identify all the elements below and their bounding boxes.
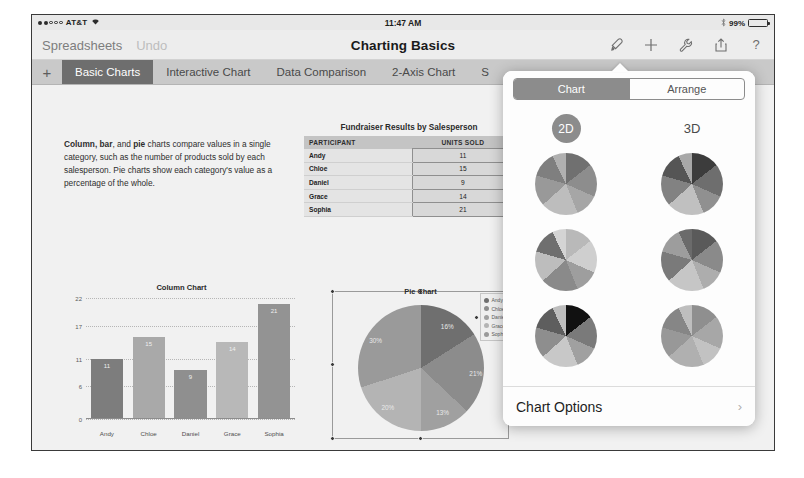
- cell-participant[interactable]: Grace: [304, 189, 412, 203]
- help-question-icon[interactable]: ?: [747, 36, 764, 54]
- dimension-2d[interactable]: 2D: [503, 114, 629, 143]
- table-title: Fundraiser Results by Salesperson: [304, 123, 514, 132]
- bar[interactable]: 15: [133, 337, 165, 420]
- clock-label: 11:47 AM: [32, 18, 774, 28]
- legend-label: Andy: [492, 297, 503, 303]
- y-axis-tick-label: 6: [79, 384, 82, 390]
- cell-units-sold[interactable]: 11: [412, 149, 513, 163]
- tab-data-comparison[interactable]: Data Comparison: [264, 60, 379, 84]
- column-header-participant: PARTICIPANT: [304, 136, 412, 149]
- share-export-icon[interactable]: [712, 36, 729, 54]
- resize-handle-bc[interactable]: [418, 436, 423, 441]
- column-chart[interactable]: Column Chart 06111722 111591421 AndyChlo…: [60, 281, 303, 441]
- status-bar-right: 99%: [721, 18, 768, 29]
- y-axis-tick-label: 11: [76, 357, 82, 363]
- chart-options-row[interactable]: Chart Options ›: [503, 386, 755, 426]
- legend-handle[interactable]: [474, 315, 479, 320]
- pie-slice-label: 16%: [441, 323, 454, 330]
- tab-2-axis-chart[interactable]: 2-Axis Chart: [379, 60, 468, 84]
- x-axis-labels: AndyChloeDanielGraceSophia: [86, 430, 295, 437]
- pie-graphic[interactable]: [358, 305, 484, 431]
- data-table-block[interactable]: Fundraiser Results by Salesperson PARTIC…: [304, 123, 514, 217]
- tools-wrench-icon[interactable]: [677, 36, 694, 54]
- cell-participant[interactable]: Chloe: [304, 162, 412, 176]
- table-row[interactable]: Daniel9: [304, 176, 514, 190]
- cell-participant[interactable]: Daniel: [304, 176, 412, 190]
- nav-right-group: ?: [607, 30, 764, 60]
- cell-units-sold[interactable]: 21: [412, 203, 513, 217]
- x-axis-line: [86, 418, 295, 419]
- tab-scatter-partial[interactable]: S: [468, 60, 502, 84]
- pie-style-3[interactable]: [535, 229, 597, 291]
- bar-column[interactable]: 15: [133, 298, 165, 419]
- bar-value-label: 15: [133, 341, 165, 347]
- dimension-2d-label: 2D: [552, 114, 581, 143]
- y-axis-tick-label: 17: [75, 324, 82, 330]
- table-row[interactable]: Sophia21: [304, 203, 514, 217]
- tab-interactive-chart[interactable]: Interactive Chart: [153, 60, 263, 84]
- svg-text:?: ?: [752, 37, 759, 52]
- x-axis-category-label: Andy: [91, 430, 123, 437]
- navigation-bar: Spreadsheets Undo Charting Basics: [32, 30, 774, 60]
- bar-column[interactable]: 14: [216, 298, 248, 419]
- x-axis-category-label: Grace: [216, 430, 248, 437]
- legend-swatch: [484, 298, 489, 303]
- cell-participant[interactable]: Andy: [304, 149, 412, 163]
- gridline: 0: [86, 419, 295, 420]
- insert-plus-icon[interactable]: [642, 36, 659, 54]
- bar[interactable]: 11: [91, 359, 123, 420]
- description-bold-pie: pie: [133, 139, 145, 149]
- bar-column[interactable]: 21: [258, 298, 290, 419]
- dimension-3d[interactable]: 3D: [629, 114, 755, 143]
- pie-chart[interactable]: Pie Chart 16%21%13%20%30% AndyChloeDanie…: [328, 285, 513, 445]
- pie-style-1[interactable]: [535, 153, 597, 215]
- bar[interactable]: 9: [174, 370, 206, 420]
- bar-column[interactable]: 11: [91, 298, 123, 419]
- chevron-right-icon: ›: [738, 399, 742, 414]
- chart-options-label: Chart Options: [516, 399, 602, 415]
- x-axis-category-label: Sophia: [258, 430, 290, 437]
- popover-header: Chart Arrange: [503, 71, 755, 108]
- pie-style-2[interactable]: [661, 153, 723, 215]
- table-row[interactable]: Andy11: [304, 149, 514, 163]
- y-axis-tick-label: 22: [75, 296, 82, 302]
- pie-style-4[interactable]: [661, 229, 723, 291]
- bar[interactable]: 14: [216, 342, 248, 419]
- tab-basic-charts[interactable]: Basic Charts: [62, 60, 153, 84]
- legend-swatch: [484, 332, 489, 337]
- legend-swatch: [484, 323, 489, 328]
- add-sheet-button[interactable]: +: [32, 60, 62, 84]
- bar-value-label: 21: [258, 308, 290, 314]
- pie-style-6[interactable]: [661, 305, 723, 367]
- segment-chart[interactable]: Chart: [514, 79, 629, 99]
- bar[interactable]: 21: [258, 304, 290, 420]
- segmented-control[interactable]: Chart Arrange: [513, 78, 745, 100]
- bar-series: 111591421: [86, 298, 295, 419]
- format-brush-icon[interactable]: [607, 36, 624, 54]
- segment-arrange[interactable]: Arrange: [629, 79, 745, 99]
- y-axis-tick-label: 0: [79, 417, 82, 423]
- pie-slice-label: 13%: [436, 409, 449, 416]
- popover-body: 2D 3D: [503, 108, 755, 386]
- table-row[interactable]: Chloe15: [304, 162, 514, 176]
- description-connector: , and: [112, 139, 133, 149]
- bar-column[interactable]: 9: [174, 298, 206, 419]
- fundraiser-table[interactable]: PARTICIPANT UNITS SOLD Andy11Chloe15Dani…: [304, 136, 514, 217]
- x-axis-category-label: Daniel: [174, 430, 206, 437]
- ipad-screen: AT&T 11:47 AM 99% Spreadsheets Undo Char…: [31, 14, 775, 451]
- resize-handle-ml[interactable]: [330, 362, 335, 367]
- legend-swatch: [484, 315, 489, 320]
- table-body: Andy11Chloe15Daniel9Grace14Sophia21: [304, 149, 514, 217]
- bar-value-label: 9: [174, 374, 206, 380]
- pie-style-5[interactable]: [535, 305, 597, 367]
- table-row[interactable]: Grace14: [304, 189, 514, 203]
- cell-units-sold[interactable]: 15: [412, 162, 513, 176]
- description-bold-lead: Column, bar: [64, 139, 112, 149]
- cell-units-sold[interactable]: 9: [412, 176, 513, 190]
- cell-units-sold[interactable]: 14: [412, 189, 513, 203]
- resize-handle-bl[interactable]: [330, 436, 335, 441]
- legend-swatch: [484, 306, 489, 311]
- popover-arrow: [611, 63, 629, 72]
- column-header-units-sold: UNITS SOLD: [412, 136, 513, 149]
- cell-participant[interactable]: Sophia: [304, 203, 412, 217]
